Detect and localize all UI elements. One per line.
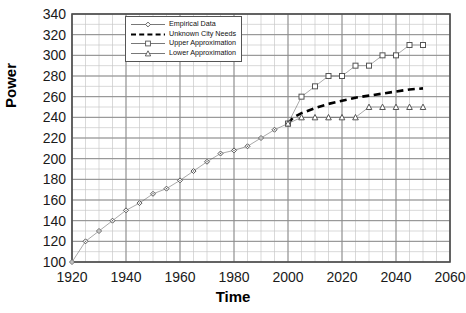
- datapoint-0-0-center: [71, 261, 72, 262]
- datapoint-3-5: [353, 114, 359, 119]
- datapoint-0-14-center: [260, 137, 261, 138]
- datapoint-3-8: [393, 104, 399, 109]
- datapoint-3-9: [407, 104, 413, 109]
- legend-marker-triangle: [130, 49, 166, 58]
- datapoint-0-12-center: [233, 150, 234, 151]
- datapoint-3-3: [326, 114, 332, 119]
- datapoint-2-4: [340, 74, 345, 79]
- datapoint-2-2: [313, 84, 318, 89]
- datapoint-3-6: [366, 104, 372, 109]
- datapoint-2-1: [299, 94, 304, 99]
- datapoint-2-3: [326, 74, 331, 79]
- legend-swatch-diamond-icon: [130, 20, 166, 29]
- legend-item-3: Lower Approximation: [130, 49, 236, 59]
- datapoint-0-2-center: [98, 230, 99, 231]
- datapoint-3-7: [380, 104, 386, 109]
- datapoint-0-8-center: [179, 180, 180, 181]
- legend-swatch-square-icon: [130, 39, 166, 48]
- legend-marker-none: [130, 30, 166, 39]
- datapoint-3-2: [312, 114, 318, 119]
- datapoint-0-6-center: [152, 193, 153, 194]
- datapoint-0-10-center: [206, 161, 207, 162]
- datapoint-2-8: [394, 53, 399, 58]
- datapoint-0-9-center: [193, 170, 194, 171]
- datapoint-2-9: [407, 43, 412, 48]
- legend-marker-square: [130, 39, 166, 48]
- datapoint-0-11-center: [220, 153, 221, 154]
- datapoint-3-4: [339, 114, 345, 119]
- legend-label: Lower Approximation: [169, 48, 236, 59]
- datapoint-2-10: [421, 43, 426, 48]
- datapoint-3-10: [420, 104, 426, 109]
- datapoint-0-13-center: [247, 146, 248, 147]
- datapoint-0-5-center: [139, 202, 140, 203]
- datapoint-0-7-center: [166, 188, 167, 189]
- datapoint-2-5: [353, 63, 358, 68]
- datapoint-2-6: [367, 63, 372, 68]
- legend-swatch-triangle-icon: [130, 49, 166, 58]
- datapoint-2-7: [380, 53, 385, 58]
- chart-figure: Power Time 10012014016018020022024026028…: [0, 0, 466, 313]
- legend-swatch-none-icon: [130, 30, 166, 39]
- legend-marker-diamond: [130, 20, 166, 29]
- datapoint-0-4-center: [125, 210, 126, 211]
- datapoint-0-1-center: [85, 241, 86, 242]
- datapoint-0-3-center: [112, 220, 113, 221]
- datapoint-0-15-center: [274, 129, 275, 130]
- chart-legend: Empirical DataUnknown City NeedsUpper Ap…: [125, 16, 242, 62]
